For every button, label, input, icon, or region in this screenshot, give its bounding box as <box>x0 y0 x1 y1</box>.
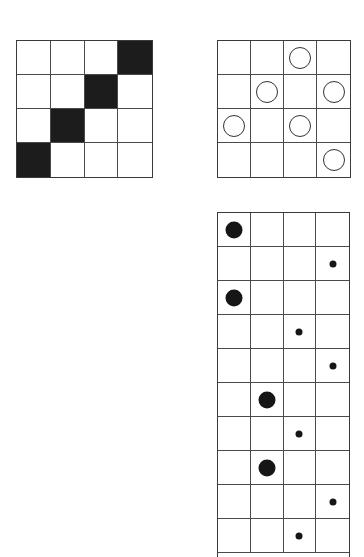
grid-cell <box>85 143 119 177</box>
ring-grid <box>217 40 351 178</box>
grid-cell <box>251 451 284 485</box>
grid-cell <box>251 349 284 383</box>
grid-cell <box>284 281 317 315</box>
grid-cell <box>284 247 317 281</box>
grid-cell <box>284 75 317 109</box>
grid-cell <box>251 41 284 75</box>
grid-cell <box>316 383 349 417</box>
grid-cell <box>316 451 349 485</box>
grid-cell <box>284 383 317 417</box>
grid-cell <box>284 143 317 177</box>
large-dot-icon <box>225 221 242 238</box>
grid-cell <box>17 75 51 109</box>
filled-cell <box>118 41 152 75</box>
circle-ring-icon <box>289 115 311 137</box>
grid-cell <box>218 281 251 315</box>
grid-cell <box>316 349 349 383</box>
grid-cell <box>284 109 317 143</box>
grid-cell <box>251 485 284 519</box>
grid-cell <box>284 485 317 519</box>
grid-cell <box>251 247 284 281</box>
grid-cell <box>316 485 349 519</box>
grid-cell <box>218 109 251 143</box>
grid-cell <box>317 143 350 177</box>
small-dot-icon <box>329 498 336 505</box>
grid-cell <box>218 349 251 383</box>
dot-grid <box>217 212 350 557</box>
grid-cell <box>118 75 152 109</box>
grid-cell <box>316 213 349 247</box>
grid-cell <box>284 315 317 349</box>
grid-cell <box>218 383 251 417</box>
grid-cell <box>284 41 317 75</box>
grid-cell <box>251 143 284 177</box>
grid-cell <box>251 417 284 451</box>
circle-ring-icon <box>223 115 245 137</box>
grid-cell <box>316 315 349 349</box>
grid-cell <box>218 213 251 247</box>
grid-cell <box>316 281 349 315</box>
grid-cell <box>316 519 349 553</box>
grid-cell <box>218 143 251 177</box>
grid-cell <box>218 247 251 281</box>
grid-cell <box>218 75 251 109</box>
small-dot-icon <box>296 328 303 335</box>
grid-cell <box>251 213 284 247</box>
grid-cell <box>284 213 317 247</box>
circle-ring-icon <box>256 81 278 103</box>
grid-cell <box>251 109 284 143</box>
filled-square-grid <box>16 40 153 178</box>
large-dot-icon <box>258 391 275 408</box>
grid-cell <box>218 41 251 75</box>
grid-cell <box>251 383 284 417</box>
grid-cell <box>51 41 85 75</box>
grid-cell <box>284 451 317 485</box>
grid-cell <box>218 451 251 485</box>
small-dot-icon <box>329 362 336 369</box>
grid-cell <box>218 519 251 553</box>
grid-cell <box>251 281 284 315</box>
grid-cell <box>85 109 119 143</box>
grid-cell <box>218 417 251 451</box>
small-dot-icon <box>329 260 336 267</box>
grid-cell <box>17 41 51 75</box>
large-dot-icon <box>225 289 242 306</box>
circle-ring-icon <box>289 47 311 69</box>
grid-cell <box>251 315 284 349</box>
grid-cell <box>251 75 284 109</box>
circle-ring-icon <box>323 81 345 103</box>
grid-cell <box>118 109 152 143</box>
circle-ring-icon <box>323 149 345 171</box>
small-dot-icon <box>296 532 303 539</box>
filled-cell <box>17 143 51 177</box>
grid-cell <box>218 315 251 349</box>
grid-cell <box>51 75 85 109</box>
grid-cell <box>317 109 350 143</box>
grid-cell <box>85 41 119 75</box>
grid-cell <box>17 109 51 143</box>
grid-cell <box>284 519 317 553</box>
grid-cell <box>284 417 317 451</box>
filled-cell <box>85 75 119 109</box>
grid-cell <box>317 41 350 75</box>
small-dot-icon <box>296 430 303 437</box>
grid-cell <box>317 75 350 109</box>
grid-cell <box>118 143 152 177</box>
grid-cell <box>316 247 349 281</box>
large-dot-icon <box>258 459 275 476</box>
filled-cell <box>51 109 85 143</box>
grid-cell <box>316 417 349 451</box>
grid-cell <box>218 485 251 519</box>
grid-cell <box>51 143 85 177</box>
grid-cell <box>251 519 284 553</box>
grid-cell <box>284 349 317 383</box>
